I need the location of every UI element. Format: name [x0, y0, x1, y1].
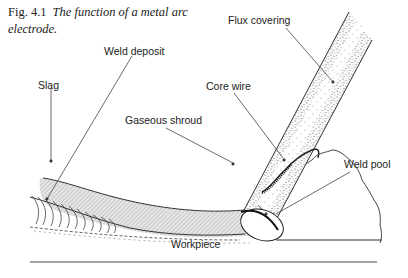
label-slag: Slag [38, 79, 59, 91]
electrode [243, 12, 372, 222]
label-weld-deposit: Weld deposit [104, 45, 165, 57]
label-weld-pool: Weld pool [344, 158, 391, 170]
slag-region [30, 178, 255, 237]
label-flux-covering: Flux covering [228, 14, 290, 26]
label-core-wire: Core wire [206, 80, 251, 92]
label-gaseous-shroud: Gaseous shroud [125, 114, 202, 126]
label-workpiece: Workpiece [171, 238, 220, 250]
electrode-diagram [0, 0, 408, 278]
